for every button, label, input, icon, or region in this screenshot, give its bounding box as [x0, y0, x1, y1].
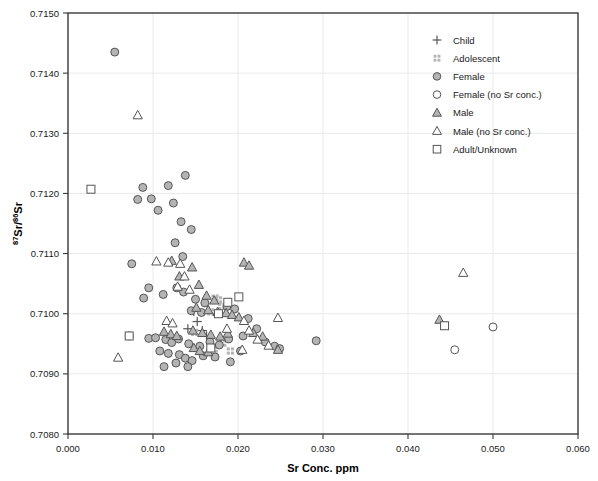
legend-item-female_no_sr[interactable]: Female (no Sr conc.): [433, 89, 542, 100]
legend-item-male_no_sr[interactable]: Male (no Sr conc.): [433, 126, 531, 137]
y-tick-label: 0.7120: [30, 188, 59, 199]
data-point: [451, 346, 459, 354]
y-tick-label: 0.7130: [30, 128, 59, 139]
data-point: [489, 323, 497, 331]
legend-item-adolescent[interactable]: Adolescent: [434, 53, 501, 64]
data-point: [235, 293, 243, 301]
data-point: [214, 310, 222, 318]
data-point: [128, 260, 136, 268]
data-point: [152, 334, 160, 342]
data-point: [160, 363, 168, 371]
x-tick-label: 0.030: [311, 443, 335, 454]
data-point: [114, 353, 123, 361]
x-axis-title: Sr Conc. ppm: [287, 462, 359, 474]
adolescent-cell: [227, 347, 230, 350]
data-point: [194, 280, 203, 288]
data-point: [159, 290, 167, 298]
legend-item-adult_unknown[interactable]: Adult/Unknown: [433, 144, 517, 155]
adolescent-cell: [434, 55, 437, 58]
x-tick-label: 0.000: [56, 443, 80, 454]
data-point: [172, 359, 180, 367]
legend-item-child[interactable]: Child: [433, 35, 475, 46]
adolescent-cell: [227, 352, 230, 355]
data-point: [273, 313, 282, 321]
adolescent-cell: [438, 59, 441, 62]
legend-marker-child: [433, 36, 442, 45]
data-point: [198, 328, 207, 336]
data-point: [441, 322, 449, 330]
data-point: [187, 226, 195, 234]
legend: ChildAdolescentFemaleFemale (no Sr conc.…: [433, 35, 542, 155]
x-tick-label: 0.020: [226, 443, 250, 454]
adolescent-cell: [438, 55, 441, 58]
legend-label-adult_unknown: Adult/Unknown: [453, 144, 517, 155]
data-point: [134, 195, 142, 203]
data-point: [164, 182, 172, 190]
x-tick-label: 0.040: [396, 443, 420, 454]
data-point: [215, 341, 223, 349]
data-point: [154, 206, 162, 214]
y-axis-title: 87Sr/86Sr: [11, 201, 24, 245]
axes-group: 0.0000.0100.0200.0300.0400.0500.0600.708…: [11, 8, 590, 475]
data-point: [87, 185, 95, 193]
data-point: [164, 349, 172, 357]
series-open-triangle: [114, 110, 468, 361]
legend-label-male_no_sr: Male (no Sr conc.): [453, 126, 531, 137]
x-tick-label: 0.010: [141, 443, 165, 454]
y-tick-label: 0.7110: [31, 248, 59, 259]
legend-item-female[interactable]: Female: [433, 71, 484, 82]
data-point: [169, 199, 177, 207]
legend-label-child: Child: [453, 35, 475, 46]
data-point: [227, 347, 234, 354]
adolescent-cell: [231, 352, 234, 355]
data-point: [125, 332, 133, 340]
series-open-circle: [451, 323, 497, 354]
y-tick-label: 0.7080: [30, 429, 59, 440]
x-tick-label: 0.060: [566, 443, 590, 454]
legend-label-female: Female: [453, 71, 485, 82]
y-axis-title-text: 87Sr/86Sr: [11, 201, 24, 245]
gridlines-group: [68, 13, 578, 434]
adolescent-cell: [219, 296, 222, 299]
data-point: [133, 110, 142, 118]
data-point: [181, 171, 189, 179]
legend-item-male[interactable]: Male: [433, 107, 474, 118]
data-point: [140, 294, 148, 302]
legend-label-adolescent: Adolescent: [453, 53, 500, 64]
data-point: [147, 195, 155, 203]
legend-label-male: Male: [453, 107, 474, 118]
data-point: [184, 363, 192, 371]
data-point: [111, 48, 119, 56]
legend-marker-adolescent: [434, 55, 441, 62]
y-tick-label: 0.7090: [30, 368, 59, 379]
data-point: [192, 295, 200, 303]
data-point: [177, 218, 185, 226]
legend-marker-male: [433, 108, 442, 116]
legend-marker-female: [433, 73, 441, 81]
data-point: [159, 327, 168, 335]
x-tick-label: 0.050: [481, 443, 505, 454]
data-point: [224, 298, 232, 306]
legend-label-female_no_sr: Female (no Sr conc.): [453, 89, 542, 100]
y-tick-label: 0.7150: [30, 8, 59, 19]
data-point: [187, 263, 196, 271]
data-point: [193, 317, 202, 326]
adolescent-cell: [231, 347, 234, 350]
data-point: [459, 268, 468, 276]
data-point: [222, 324, 231, 332]
data-point: [139, 183, 147, 191]
data-point: [312, 337, 320, 345]
data-point: [206, 330, 215, 338]
adolescent-cell: [434, 59, 437, 62]
data-point: [145, 284, 153, 292]
data-point: [202, 291, 211, 299]
data-point: [171, 239, 179, 247]
legend-marker-male_no_sr: [433, 126, 442, 134]
y-tick-label: 0.7100: [30, 308, 59, 319]
legend-marker-female_no_sr: [433, 91, 441, 99]
series-open-square: [87, 185, 449, 352]
series-filled-circle: [111, 48, 320, 371]
data-point: [156, 347, 164, 355]
legend-marker-adult_unknown: [433, 145, 441, 153]
y-tick-label: 0.7140: [30, 68, 59, 79]
